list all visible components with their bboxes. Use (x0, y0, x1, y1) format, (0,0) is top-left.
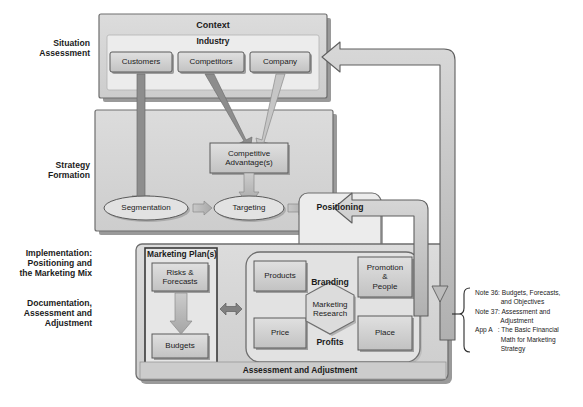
stage-label-situation-assessment: SituationAssessment (8, 38, 90, 58)
footer-assessment-adjustment: Assessment and Adjustment (210, 363, 390, 378)
branding-label: Branding (300, 276, 360, 289)
marketing-plan-title: Marketing Plan(s) (140, 248, 224, 262)
box-products: Products (254, 261, 306, 291)
box-competitors: Competitors (178, 52, 244, 72)
ellipse-targeting: Targeting (214, 198, 284, 218)
stage-label-strategy-formation: StrategyFormation (8, 160, 90, 180)
box-promotion-people: Promotion&People (358, 257, 412, 297)
box-competitive-advantage: CompetitiveAdvantage(s) (210, 143, 288, 173)
notes-block: Note 36: Budgets, Forecasts, and Objecti… (475, 288, 583, 354)
box-company: Company (250, 52, 310, 72)
stage-label-documentation: Documentation,Assessment andAdjustment (4, 298, 92, 328)
box-place: Place (358, 316, 412, 350)
industry-label: Industry (153, 35, 273, 49)
box-risks-forecasts: Risks &Forecasts (152, 263, 208, 291)
box-price: Price (254, 318, 306, 348)
box-budgets: Budgets (152, 334, 208, 358)
context-title: Context (153, 18, 273, 32)
stage-label-implementation: Implementation:Positioning andthe Market… (0, 248, 92, 278)
profits-label: Profits (300, 336, 360, 349)
ellipse-segmentation: Segmentation (104, 198, 188, 218)
positioning-label: Positioning (299, 200, 381, 216)
marketing-strategy-diagram: SituationAssessment StrategyFormation Im… (0, 0, 583, 407)
marketing-research-label: MarketingResearch (300, 296, 360, 322)
box-customers: Customers (110, 52, 172, 72)
